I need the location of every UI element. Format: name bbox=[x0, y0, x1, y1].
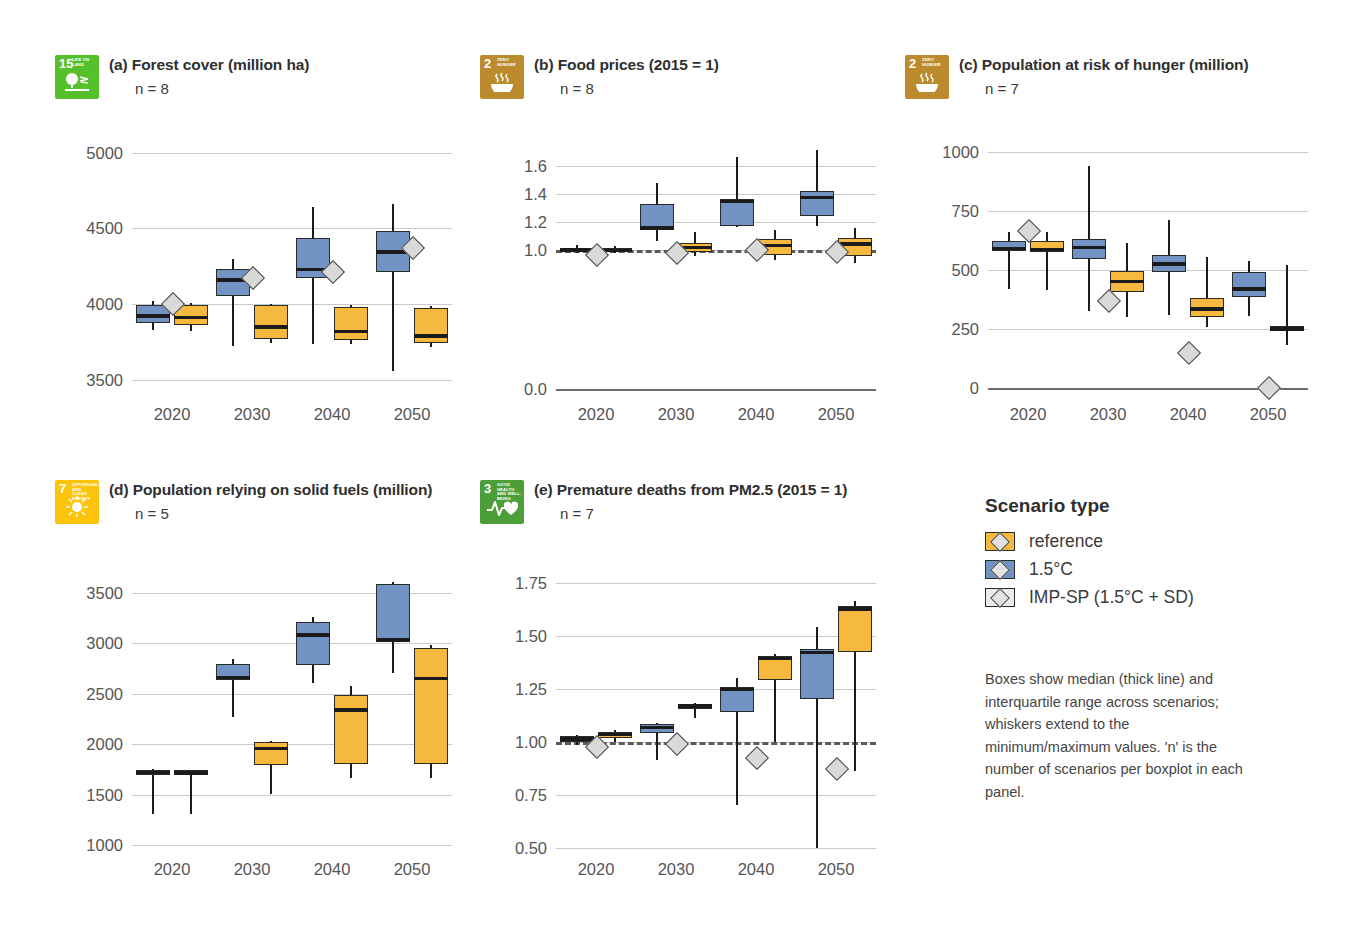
imp-sp-diamond-marker bbox=[665, 732, 689, 756]
sdg-icon-3: 3GOOD HEALTH AND WELL-BEING bbox=[480, 480, 524, 524]
x-tick-label: 2030 bbox=[658, 860, 695, 879]
imp-sp-diamond-marker bbox=[825, 757, 849, 781]
legend-swatch-c15 bbox=[985, 560, 1015, 579]
diamond-icon bbox=[990, 532, 1010, 552]
gridline bbox=[556, 583, 876, 584]
median-line bbox=[800, 651, 834, 654]
y-tick-label: 1.75 bbox=[515, 574, 547, 593]
panel-e-plot: 1.751.501.251.000.750.502020203020402050 bbox=[556, 575, 876, 850]
y-tick-label: 0.75 bbox=[515, 786, 547, 805]
legend-label: reference bbox=[1029, 531, 1103, 552]
y-tick-label: 1.50 bbox=[515, 627, 547, 646]
legend-note: Boxes show median (thick line) and inter… bbox=[985, 668, 1245, 803]
median-line bbox=[640, 726, 674, 729]
diamond-icon bbox=[990, 560, 1010, 580]
boxplot-box bbox=[838, 606, 872, 653]
gridline bbox=[556, 848, 876, 849]
gridline bbox=[556, 636, 876, 637]
legend-swatch-ref bbox=[985, 532, 1015, 551]
panel-e-n: n = 7 bbox=[560, 505, 847, 522]
legend-title: Scenario type bbox=[985, 495, 1245, 517]
y-tick-label: 0.50 bbox=[515, 838, 547, 857]
median-line bbox=[720, 688, 754, 691]
median-line bbox=[560, 737, 594, 740]
gridline bbox=[556, 795, 876, 796]
figure-canvas: 15LIFE ON LAND(a) Forest cover (million … bbox=[0, 0, 1371, 931]
imp-sp-diamond-marker bbox=[745, 746, 769, 770]
legend-label: IMP-SP (1.5°C + SD) bbox=[1029, 587, 1194, 608]
legend-swatch-imp bbox=[985, 588, 1015, 607]
legend-item-c15[interactable]: 1.5°C bbox=[985, 559, 1245, 580]
boxplot-box bbox=[800, 649, 834, 699]
median-line bbox=[838, 607, 872, 610]
median-line bbox=[758, 657, 792, 660]
heartbeat-icon bbox=[480, 499, 524, 521]
y-tick-label: 1.25 bbox=[515, 680, 547, 699]
sdg-number: 3 bbox=[484, 482, 491, 495]
legend-item-imp[interactable]: IMP-SP (1.5°C + SD) bbox=[985, 587, 1245, 608]
legend: Scenario typereference1.5°CIMP-SP (1.5°C… bbox=[985, 495, 1245, 803]
median-line bbox=[678, 704, 712, 707]
legend-label: 1.5°C bbox=[1029, 559, 1073, 580]
diamond-icon bbox=[990, 588, 1010, 608]
panel-e-header: 3GOOD HEALTH AND WELL-BEING(e) Premature… bbox=[480, 480, 847, 524]
x-tick-label: 2050 bbox=[818, 860, 855, 879]
x-tick-label: 2020 bbox=[578, 860, 615, 879]
median-line bbox=[598, 733, 632, 736]
y-tick-label: 1.00 bbox=[515, 733, 547, 752]
legend-item-ref[interactable]: reference bbox=[985, 531, 1245, 552]
boxplot-box bbox=[720, 687, 754, 712]
x-tick-label: 2040 bbox=[738, 860, 775, 879]
panel-e-title: (e) Premature deaths from PM2.5 (2015 = … bbox=[534, 481, 847, 499]
